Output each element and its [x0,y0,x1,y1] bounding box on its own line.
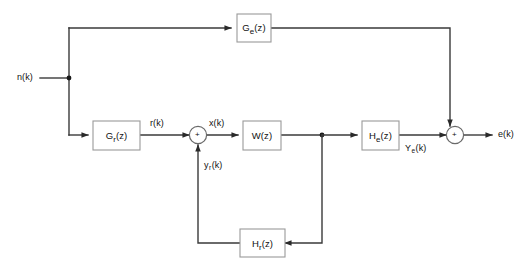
block-gr-suffix: (z) [116,130,127,141]
signal-yrk-base: y [204,160,209,170]
block-w-suffix: (z) [261,130,272,141]
wire-ge-to-sum-output [270,28,450,126]
signal-label-ek: e(k) [498,130,514,139]
block-ge-suffix: (z) [254,22,265,33]
wire-branch-to-hr [285,135,322,243]
signal-nk-suffix: (k) [22,72,33,82]
signal-label-yek: Ye(k) [405,144,426,153]
block-label-he: He(z) [362,131,399,144]
block-he-suffix: (z) [381,130,392,141]
signal-yek-suffix: (k) [416,143,427,153]
signal-ek-suffix: (k) [503,129,514,139]
block-hr-suffix: (z) [262,238,273,249]
block-hr-base: H [252,238,259,249]
signal-rk-suffix: (k) [153,118,164,128]
block-w-base: W [252,130,261,141]
block-label-ge: Ge(z) [237,23,271,36]
branch-node-nk [67,76,72,81]
signal-yrk-sub: r [209,164,212,171]
sum-input-sign: + [195,131,200,139]
signal-label-rk: r(k) [150,119,164,128]
block-label-w: W(z) [243,131,281,141]
block-diagram-canvas: Ge(z) Gr(z) W(z) He(z) Hr(z) + + n(k) r(… [0,0,530,278]
signal-xk-suffix: (k) [214,118,225,128]
signal-yrk-suffix: (k) [212,160,223,170]
signal-label-yrk: yr(k) [204,161,222,170]
block-he-base: H [369,130,376,141]
block-label-gr: Gr(z) [93,131,140,144]
block-ge-base: G [242,22,250,33]
signal-label-xk: x(k) [209,119,224,128]
signal-label-nk: n(k) [17,73,33,82]
sum-output-sign: + [452,131,457,139]
signal-yek-sub: e [411,147,416,154]
block-label-hr: Hr(z) [240,239,285,252]
